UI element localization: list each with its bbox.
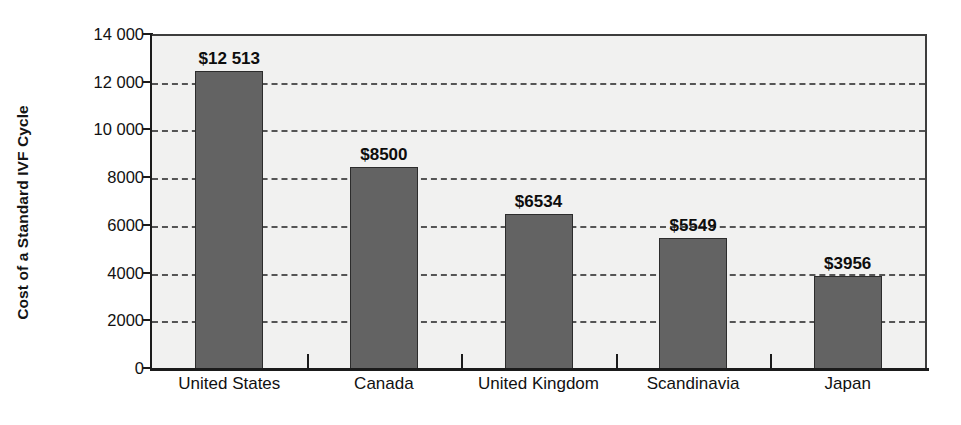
bar: $8500 [350, 167, 418, 370]
gridline [152, 83, 925, 85]
bar: $5549 [659, 238, 727, 370]
x-axis-tick-mark [307, 354, 309, 368]
x-axis-tick-mark [616, 354, 618, 368]
bar: $12 513 [195, 71, 263, 370]
bar-value-label: $6534 [515, 192, 562, 212]
x-axis-category-label: Japan [825, 374, 871, 394]
bar-value-label: $12 513 [199, 49, 260, 69]
x-axis-category-label: United States [178, 374, 280, 394]
bar: $3956 [814, 276, 882, 370]
gridline [152, 178, 925, 180]
y-axis-tick-label: 2000 [44, 311, 144, 330]
y-axis-tick-label: 6000 [44, 215, 144, 234]
x-axis-category-label: Canada [354, 374, 414, 394]
y-axis-tick-label: 0 [44, 359, 144, 378]
bar-value-label: $5549 [669, 216, 716, 236]
y-axis-tick-label: 8000 [44, 168, 144, 187]
x-axis-line [150, 368, 929, 371]
bar: $6534 [505, 214, 573, 370]
x-axis-tick-mark [461, 354, 463, 368]
y-axis-tick-label: 4000 [44, 263, 144, 282]
y-axis-tick-label: 12 000 [44, 72, 144, 91]
gridline [152, 130, 925, 132]
plot-area: $12 513$8500$6534$5549$3956 [152, 34, 927, 370]
x-axis-category-label: Scandinavia [647, 374, 740, 394]
y-axis-tick-label: 14 000 [44, 25, 144, 44]
y-axis-tick-label: 10 000 [44, 120, 144, 139]
bar-chart: Cost of a Standard IVF Cycle 02000400060… [0, 0, 961, 425]
x-axis-tick-mark [770, 354, 772, 368]
x-axis-category-label: United Kingdom [478, 374, 599, 394]
bar-value-label: $8500 [360, 145, 407, 165]
bar-value-label: $3956 [824, 254, 871, 274]
y-axis-tick-labels: 0200040006000800010 00012 00014 000 [38, 0, 144, 425]
